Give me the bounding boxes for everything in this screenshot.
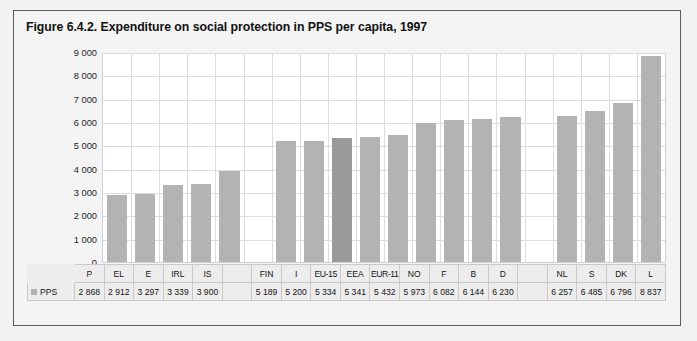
bar-slot	[215, 54, 243, 262]
bar[interactable]	[388, 135, 408, 262]
value-cell: 6 796	[606, 283, 636, 301]
value-cell: 8 837	[636, 283, 666, 301]
value-cell: 6 144	[459, 283, 489, 301]
bar-slot	[356, 54, 384, 262]
value-cell: 5 334	[311, 283, 341, 301]
value-cell: 5 200	[281, 283, 311, 301]
bar-slot	[609, 54, 637, 262]
category-cell: NO	[400, 265, 430, 283]
value-cell: 2 912	[104, 283, 134, 301]
category-cell: DK	[606, 265, 636, 283]
category-cell: F	[429, 265, 459, 283]
bar[interactable]	[585, 111, 605, 262]
y-axis-tick-label: 3 000	[74, 188, 97, 198]
category-cell: NL	[547, 265, 577, 283]
bar-slot	[131, 54, 159, 262]
table-corner-cell	[28, 265, 75, 283]
bar[interactable]	[416, 123, 436, 262]
value-cell: 6 257	[547, 283, 577, 301]
y-axis-tick-label: 1 000	[74, 235, 97, 245]
bar-slot	[412, 54, 440, 262]
bar-slot	[272, 54, 300, 262]
value-cell: 6 082	[429, 283, 459, 301]
category-cell: EU-15	[311, 265, 341, 283]
legend-swatch-icon	[31, 289, 37, 295]
category-cell: FIN	[252, 265, 282, 283]
legend-cell: PPS	[28, 283, 75, 301]
category-cell: E	[134, 265, 164, 283]
figure-frame: Figure 6.4.2. Expenditure on social prot…	[13, 10, 681, 326]
chart-area: 9 0008 0007 0006 0005 0004 0003 0002 000…	[58, 53, 666, 263]
value-cell: 5 973	[400, 283, 430, 301]
category-cell: P	[75, 265, 105, 283]
bar-slot	[553, 54, 581, 262]
value-cell-empty	[518, 283, 548, 301]
value-cell: 6 230	[488, 283, 518, 301]
bar[interactable]	[163, 185, 183, 262]
y-axis-tick-label: 8 000	[74, 71, 97, 81]
bar[interactable]	[472, 119, 492, 262]
bar[interactable]	[276, 141, 296, 262]
bar-slot	[384, 54, 412, 262]
plot-area	[102, 53, 666, 263]
bar-slot-empty	[525, 54, 553, 262]
bar-slot	[468, 54, 496, 262]
bar-slot	[103, 54, 131, 262]
value-cell: 6 485	[577, 283, 607, 301]
category-cell: EUR-11	[370, 265, 400, 283]
value-cell: 3 297	[134, 283, 164, 301]
value-cell: 5 341	[340, 283, 370, 301]
category-cell-empty	[222, 265, 252, 283]
bar-slot	[300, 54, 328, 262]
bar[interactable]	[613, 103, 633, 262]
value-cell: 2 868	[75, 283, 105, 301]
bar[interactable]	[360, 137, 380, 262]
bar[interactable]	[500, 117, 520, 262]
bar[interactable]	[444, 120, 464, 262]
category-cell: D	[488, 265, 518, 283]
value-cell: 5 432	[370, 283, 400, 301]
data-table: PELEIRLISFINIEU-15EEAEUR-11NOFBDNLSDKL P…	[27, 264, 666, 301]
y-axis-tick-label: 6 000	[74, 118, 97, 128]
bar[interactable]	[641, 56, 661, 262]
category-cell: L	[636, 265, 666, 283]
bar-slot	[440, 54, 468, 262]
y-axis-tick-label: 5 000	[74, 141, 97, 151]
bar[interactable]	[107, 195, 127, 262]
y-axis: 9 0008 0007 0006 0005 0004 0003 0002 000…	[58, 53, 102, 263]
value-cell: 3 900	[193, 283, 223, 301]
bar-slot	[581, 54, 609, 262]
bar[interactable]	[135, 194, 155, 262]
bar-slot	[328, 54, 356, 262]
y-axis-tick-label: 9 000	[74, 48, 97, 58]
bar[interactable]	[557, 116, 577, 262]
value-cell-empty	[222, 283, 252, 301]
category-label-row: PELEIRLISFINIEU-15EEAEUR-11NOFBDNLSDKL	[28, 265, 666, 283]
category-cell: IRL	[163, 265, 193, 283]
category-cell: S	[577, 265, 607, 283]
bar-slot-empty	[244, 54, 272, 262]
bar-slot	[637, 54, 665, 262]
value-cell: 5 189	[252, 283, 282, 301]
value-cell: 3 339	[163, 283, 193, 301]
category-cell: B	[459, 265, 489, 283]
bar-slot	[187, 54, 215, 262]
category-cell-empty	[518, 265, 548, 283]
category-cell: EEA	[340, 265, 370, 283]
y-axis-tick-label: 2 000	[74, 211, 97, 221]
category-cell: EL	[104, 265, 134, 283]
legend-label: PPS	[40, 287, 57, 297]
figure-title: Figure 6.4.2. Expenditure on social prot…	[26, 20, 427, 34]
bar[interactable]	[219, 171, 239, 262]
bar[interactable]	[332, 138, 352, 262]
y-axis-tick-label: 4 000	[74, 165, 97, 175]
value-row: PPS2 8682 9123 2973 3393 9005 1895 2005 …	[28, 283, 666, 301]
bar-slot	[496, 54, 524, 262]
category-cell: IS	[193, 265, 223, 283]
bar[interactable]	[191, 184, 211, 262]
y-axis-tick-label: 7 000	[74, 95, 97, 105]
bar[interactable]	[304, 141, 324, 262]
category-cell: I	[281, 265, 311, 283]
bar-slot	[159, 54, 187, 262]
